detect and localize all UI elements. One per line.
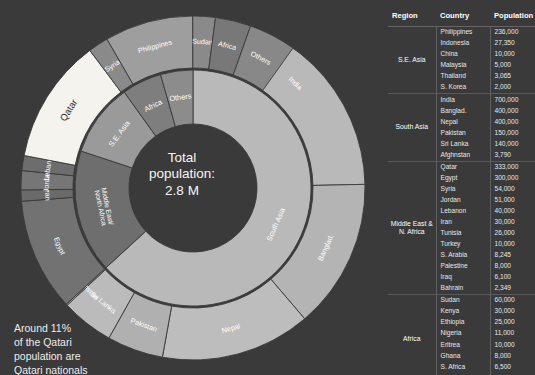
table-country-cell: Turkey: [436, 239, 490, 250]
table-population-cell: 3,065: [490, 71, 535, 82]
table-population-cell: 140,000: [490, 138, 535, 149]
table-row: Middle East & N. AfricaQatar333,000: [388, 161, 535, 173]
table-population-cell: 10,000: [490, 49, 535, 60]
table-country-cell: Nepal: [436, 116, 490, 127]
table-population-cell: 27,350: [490, 38, 535, 49]
table-country-cell: Ghana: [436, 350, 490, 361]
table-country-cell: Kenya: [436, 306, 490, 317]
note-line-2: of the Qatari: [14, 336, 139, 350]
table-country-cell: S. Korea: [436, 82, 490, 94]
table-population-cell: 300,000: [490, 173, 535, 184]
population-table-panel: Region Country Population S.E. AsiaPhili…: [388, 0, 535, 375]
table-population-cell: 2,000: [490, 82, 535, 94]
table-country-cell: Sri Lanka: [436, 138, 490, 149]
note-line-3: population are: [14, 350, 139, 364]
header-region: Region: [388, 11, 436, 27]
header-population: Population: [490, 11, 535, 27]
table-population-cell: 40,000: [490, 206, 535, 217]
table-country-cell: Eritrea: [436, 339, 490, 350]
population-table: Region Country Population S.E. AsiaPhili…: [388, 11, 535, 375]
table-row: S.E. AsiaPhilippines236,000: [388, 27, 535, 39]
table-head: Region Country Population: [388, 11, 535, 27]
table-region-cell: Africa: [388, 295, 436, 375]
table-population-cell: 333,000: [490, 161, 535, 173]
qatari-nationals-note: Around 11% of the Qatari population are …: [14, 322, 139, 375]
note-line-4: Qatari nationals: [14, 364, 139, 375]
table-region-cell: Middle East & N. Africa: [388, 161, 436, 295]
table-country-cell: China: [436, 49, 490, 60]
table-population-cell: 25,000: [490, 317, 535, 328]
table-country-cell: Iraq: [436, 272, 490, 283]
table-population-cell: 54,000: [490, 184, 535, 195]
table-country-cell: Thailand: [436, 71, 490, 82]
table-country-cell: Banglad.: [436, 105, 490, 116]
table-country-cell: Philippines: [436, 27, 490, 39]
table-country-cell: Palestine: [436, 261, 490, 272]
table-country-cell: Indonesia: [436, 38, 490, 49]
table-population-cell: 8,000: [490, 350, 535, 361]
table-country-cell: Sudan: [436, 295, 490, 307]
table-population-cell: 30,000: [490, 217, 535, 228]
table-country-cell: Bahrain: [436, 283, 490, 295]
donut-chart: South AsiaMiddle East/North AfricaS.E. A…: [13, 8, 373, 368]
table-population-cell: 26,000: [490, 228, 535, 239]
table-population-cell: 700,000: [490, 94, 535, 106]
outer-ring-label: Sudan: [192, 37, 213, 47]
table-population-cell: 10,000: [490, 339, 535, 350]
table-country-cell: S. Arabia: [436, 250, 490, 261]
table-population-cell: 150,000: [490, 127, 535, 138]
table-population-cell: 236,000: [490, 27, 535, 39]
table-country-cell: Syria: [436, 184, 490, 195]
table-population-cell: 400,000: [490, 105, 535, 116]
table-country-cell: Jordan: [436, 195, 490, 206]
table-population-cell: 60,000: [490, 295, 535, 307]
table-region-cell: South Asia: [388, 94, 436, 161]
table-population-cell: 5,000: [490, 60, 535, 71]
table-population-cell: 11,000: [490, 328, 535, 339]
table-country-cell: Ethiopia: [436, 317, 490, 328]
chart-panel: South AsiaMiddle East/North AfricaS.E. A…: [0, 0, 385, 375]
table-population-cell: 51,000: [490, 195, 535, 206]
table-population-cell: 8,000: [490, 261, 535, 272]
table-region-cell: S.E. Asia: [388, 27, 436, 94]
table-population-cell: 30,000: [490, 306, 535, 317]
table-population-cell: 400,000: [490, 116, 535, 127]
table-population-cell: 3,790: [490, 150, 535, 162]
table-country-cell: Tunisia: [436, 228, 490, 239]
table-population-cell: 10,000: [490, 239, 535, 250]
table-population-cell: 8,245: [490, 250, 535, 261]
table-country-cell: Pakistan: [436, 127, 490, 138]
table-body: S.E. AsiaPhilippines236,000Indonesia27,3…: [388, 27, 535, 375]
note-line-1: Around 11%: [14, 322, 139, 336]
table-country-cell: Qatar: [436, 161, 490, 173]
infographic-root: South AsiaMiddle East/North AfricaS.E. A…: [0, 0, 535, 375]
table-country-cell: Iran: [436, 217, 490, 228]
table-country-cell: Afghnstan: [436, 150, 490, 162]
header-country: Country: [436, 11, 490, 27]
table-row: AfricaSudan60,000: [388, 295, 535, 307]
table-header-row: Region Country Population: [388, 11, 535, 27]
table-row: South AsiaIndia700,000: [388, 94, 535, 106]
table-country-cell: Lebanon: [436, 206, 490, 217]
table-population-cell: 6,500: [490, 361, 535, 372]
table-country-cell: S. Africa: [436, 361, 490, 372]
donut-chart-svg: South AsiaMiddle East/North AfricaS.E. A…: [13, 8, 373, 368]
table-country-cell: India: [436, 94, 490, 106]
table-population-cell: 6,100: [490, 272, 535, 283]
table-population-cell: 2,349: [490, 283, 535, 295]
table-country-cell: Egypt: [436, 173, 490, 184]
table-country-cell: Nigeria: [436, 328, 490, 339]
table-country-cell: Malaysia: [436, 60, 490, 71]
